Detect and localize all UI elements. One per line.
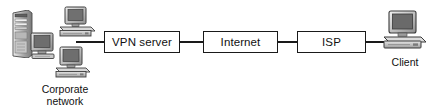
link-internet-to-isp xyxy=(277,41,298,43)
node-isp-label: ISP xyxy=(322,36,341,48)
workstation-top-icon xyxy=(58,6,96,40)
client-computer-icon xyxy=(381,10,428,54)
node-internet[interactable]: Internet xyxy=(203,31,278,53)
node-vpn-server[interactable]: VPN server xyxy=(104,31,180,53)
caption-corporate-network: Corporate network xyxy=(27,84,103,107)
link-vpn-to-internet xyxy=(179,41,204,43)
node-vpn-server-label: VPN server xyxy=(112,36,172,48)
network-diagram: VPN server Internet ISP xyxy=(0,0,440,108)
node-internet-label: Internet xyxy=(221,36,261,48)
caption-client: Client xyxy=(375,57,435,69)
link-corporate-to-vpn xyxy=(76,41,105,43)
node-isp[interactable]: ISP xyxy=(297,31,366,53)
workstation-bottom-icon xyxy=(54,46,92,80)
